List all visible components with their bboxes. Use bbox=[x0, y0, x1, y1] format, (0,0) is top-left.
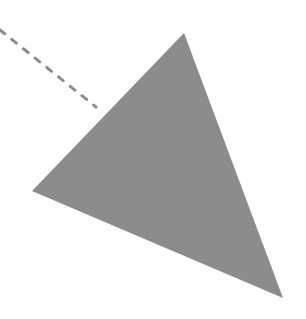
diagram-canvas bbox=[0, 0, 306, 319]
